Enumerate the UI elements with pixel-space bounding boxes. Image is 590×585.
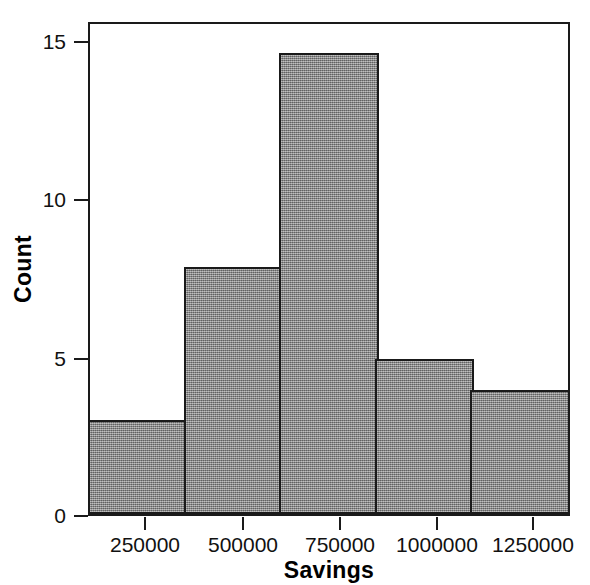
x-axis-tick-label-750000: 750000	[305, 534, 375, 555]
y-axis-title: Count	[8, 22, 38, 516]
y-axis-tick-5	[74, 358, 88, 360]
y-axis-tick-label-5: 5	[54, 348, 66, 369]
x-axis-tick-250000	[144, 517, 146, 530]
histogram-figure: 15 10 5 0 250000 500000 750000 1000000 1…	[0, 0, 590, 585]
histogram-bar-3	[279, 53, 379, 514]
x-axis-tick-label-1000000: 1000000	[396, 534, 478, 555]
bars-layer	[90, 24, 568, 514]
histogram-bar-1	[88, 420, 188, 514]
y-axis-tick-0	[74, 515, 88, 517]
x-axis-tick-label-500000: 500000	[208, 534, 278, 555]
plot-area	[88, 22, 570, 516]
x-axis-tick-750000	[339, 517, 341, 530]
histogram-bar-2	[184, 267, 284, 514]
y-axis-tick-label-15: 15	[43, 31, 66, 52]
x-axis-tick-500000	[242, 517, 244, 530]
histogram-bar-4	[375, 359, 475, 514]
x-axis-tick-1000000	[436, 517, 438, 530]
y-axis-tick-10	[74, 199, 88, 201]
y-axis-tick-label-0: 0	[54, 505, 66, 526]
histogram-bar-5	[470, 390, 570, 515]
x-axis-tick-label-250000: 250000	[110, 534, 180, 555]
x-axis-title: Savings	[88, 559, 570, 582]
x-axis-tick-label-1250000: 1250000	[492, 534, 574, 555]
y-axis-tick-15	[74, 41, 88, 43]
x-axis-tick-1250000	[532, 517, 534, 530]
y-axis-tick-label-10: 10	[43, 189, 66, 210]
